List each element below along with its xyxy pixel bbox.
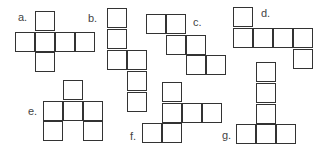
net-square	[186, 55, 206, 75]
net-square	[63, 80, 83, 100]
net-square	[107, 29, 127, 49]
net-c-label: c.	[193, 17, 202, 28]
net-g-label: g.	[222, 130, 231, 141]
net-square	[256, 104, 276, 124]
net-square	[162, 82, 182, 102]
net-square	[276, 124, 296, 144]
net-b-label: b.	[88, 13, 97, 24]
net-square	[182, 103, 202, 123]
net-d-label: d.	[261, 8, 270, 19]
net-square	[162, 123, 182, 143]
net-e-label: e.	[28, 106, 37, 117]
net-square	[83, 121, 103, 141]
net-square	[35, 52, 55, 72]
net-square	[293, 49, 313, 69]
net-square	[127, 50, 147, 70]
net-square	[256, 83, 276, 103]
net-a-label: a.	[18, 12, 27, 23]
net-square	[83, 101, 103, 121]
net-square	[233, 28, 253, 48]
net-square	[256, 124, 276, 144]
net-square	[256, 62, 276, 82]
net-square	[43, 121, 63, 141]
net-square	[236, 124, 256, 144]
net-square	[166, 14, 186, 34]
net-square	[107, 50, 127, 70]
net-square	[253, 28, 273, 48]
net-square	[15, 32, 35, 52]
net-square	[75, 32, 95, 52]
net-square	[162, 103, 182, 123]
net-square	[127, 71, 147, 91]
net-square	[127, 92, 147, 112]
net-square	[107, 8, 127, 28]
net-square	[166, 35, 186, 55]
net-square	[233, 7, 253, 27]
net-square	[186, 35, 206, 55]
net-square	[293, 28, 313, 48]
net-square	[35, 11, 55, 31]
net-square	[202, 103, 222, 123]
net-square	[273, 28, 293, 48]
net-square	[146, 14, 166, 34]
net-square	[43, 101, 63, 121]
net-square	[55, 32, 75, 52]
net-square	[35, 32, 55, 52]
net-square	[206, 55, 226, 75]
net-f-label: f.	[130, 131, 136, 142]
net-square	[63, 101, 83, 121]
net-square	[142, 123, 162, 143]
